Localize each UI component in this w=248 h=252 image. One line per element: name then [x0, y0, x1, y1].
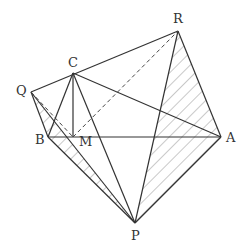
hatched-region-rpa: [135, 31, 221, 223]
label-P: P: [131, 229, 140, 242]
solid-segment-qp: [31, 92, 135, 223]
geometry-diagram: R C Q B M A P: [0, 0, 248, 252]
label-M: M: [79, 135, 92, 148]
solid-segment-cb: [48, 73, 73, 137]
solid-segment-qr: [31, 31, 178, 92]
label-A: A: [226, 131, 235, 144]
label-C: C: [68, 56, 78, 69]
label-R: R: [173, 12, 183, 25]
diagram-svg: [0, 0, 248, 252]
solid-segment-bp: [48, 137, 135, 223]
label-Q: Q: [16, 84, 27, 97]
label-B: B: [35, 133, 45, 146]
